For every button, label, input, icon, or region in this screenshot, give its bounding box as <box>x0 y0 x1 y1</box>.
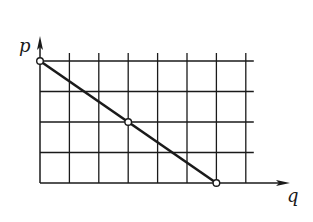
grid-lines <box>40 53 254 183</box>
data-point-marker <box>125 119 132 126</box>
x-axis-label: q <box>287 187 299 205</box>
y-axis-label: p <box>19 37 31 55</box>
chart <box>0 0 313 222</box>
data-point-marker <box>37 58 44 65</box>
data-point-marker <box>213 180 220 187</box>
axes <box>37 36 290 186</box>
